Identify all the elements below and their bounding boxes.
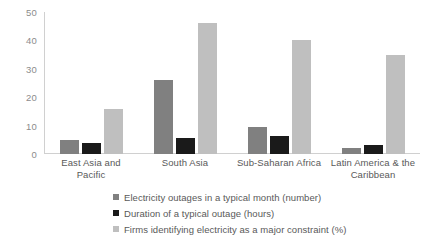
y-axis-tick-label: 30	[26, 63, 37, 74]
bar-series-3[interactable]	[386, 55, 405, 154]
legend-swatch-icon	[113, 210, 119, 216]
legend-label: Electricity outages in a typical month (…	[124, 192, 321, 203]
legend-swatch-icon	[113, 194, 119, 200]
bar-series-2[interactable]	[270, 136, 289, 154]
legend-item[interactable]: Firms identifying electricity as a major…	[113, 222, 413, 236]
legend-label: Firms identifying electricity as a major…	[124, 224, 346, 235]
bar-groups	[44, 12, 420, 154]
bar-set	[138, 12, 232, 154]
legend-swatch-icon	[113, 226, 119, 232]
category-label: Latin America & the Caribbean	[326, 157, 420, 181]
bar-set	[44, 12, 138, 154]
bar-series-1[interactable]	[248, 127, 267, 154]
category-axis-labels: East Asia and PacificSouth AsiaSub-Sahar…	[44, 157, 420, 181]
y-axis-tick-label: 40	[26, 35, 37, 46]
legend-item[interactable]: Electricity outages in a typical month (…	[113, 190, 413, 204]
bar-series-1[interactable]	[342, 148, 361, 154]
bar-group	[44, 12, 138, 154]
bar-series-3[interactable]	[292, 40, 311, 154]
bar-set	[232, 12, 326, 154]
bar-series-1[interactable]	[154, 80, 173, 154]
bar-chart: 50403020100 East Asia and PacificSouth A…	[0, 0, 435, 245]
chart-legend: Electricity outages in a typical month (…	[113, 190, 413, 238]
plot-area: 50403020100	[44, 12, 420, 154]
y-axis-tick-label: 50	[26, 7, 37, 18]
bar-series-1[interactable]	[60, 140, 79, 154]
category-label: East Asia and Pacific	[44, 157, 138, 181]
bar-group	[232, 12, 326, 154]
category-label: South Asia	[138, 157, 232, 181]
bar-series-2[interactable]	[364, 145, 383, 154]
y-axis-tick-label: 10	[26, 120, 37, 131]
bar-set	[326, 12, 420, 154]
legend-label: Duration of a typical outage (hours)	[124, 208, 274, 219]
bar-series-3[interactable]	[104, 109, 123, 154]
y-axis-tick-label: 20	[26, 92, 37, 103]
bar-series-2[interactable]	[176, 138, 195, 154]
bar-series-2[interactable]	[82, 143, 101, 154]
y-axis-tick-label: 0	[32, 149, 37, 160]
bar-series-3[interactable]	[198, 23, 217, 154]
bar-group	[138, 12, 232, 154]
bar-group	[326, 12, 420, 154]
legend-item[interactable]: Duration of a typical outage (hours)	[113, 206, 413, 220]
category-label: Sub-Saharan Africa	[232, 157, 326, 181]
